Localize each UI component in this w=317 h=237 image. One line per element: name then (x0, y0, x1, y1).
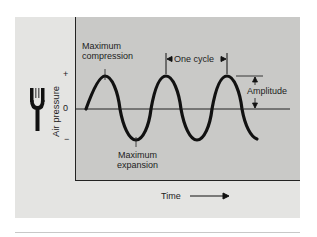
x-axis-label: Time (161, 191, 181, 201)
y-tick-zero: 0 (63, 103, 68, 113)
time-arrow-icon (190, 193, 229, 199)
sine-wave (86, 76, 257, 140)
y-tick-plus: + (63, 69, 68, 79)
one-cycle-label: One cycle (174, 54, 214, 64)
amplitude-label: Amplitude (247, 86, 287, 96)
y-axis-label: Air pressure (50, 82, 61, 142)
max-expansion-label: Maximum expansion (115, 150, 160, 170)
tuning-fork-icon (30, 88, 45, 131)
wave-diagram (0, 0, 317, 237)
y-tick-minus: − (64, 134, 69, 144)
max-compression-label: Maximum compression (82, 41, 133, 61)
